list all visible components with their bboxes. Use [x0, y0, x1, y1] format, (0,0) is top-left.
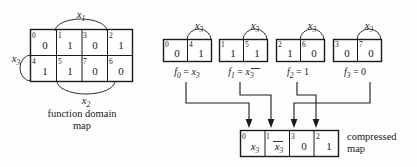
cell-value: 1 — [287, 47, 293, 59]
column-pair-1: x3 1 1 5 1 f1 = x3 — [220, 19, 268, 80]
x3-label-col1: x3 — [250, 19, 260, 34]
cell-index: 2 — [278, 40, 282, 49]
arrowhead-cell1 — [268, 119, 275, 128]
function-label-f2: f2 = 1 — [287, 66, 309, 80]
cell-index: 6 — [109, 57, 113, 66]
function-label-f1: f1 = x3 — [228, 66, 254, 80]
cell-index: 7 — [83, 57, 87, 66]
x1-label: x1 — [76, 8, 86, 23]
compressed-cell-index: 1 — [266, 132, 270, 141]
compressed-cell-value: 0 — [301, 140, 307, 152]
compressed-cell-value: x3 — [250, 140, 260, 155]
cell-value: 1 — [118, 39, 124, 51]
compressed-map-caption-line2: map — [347, 143, 365, 154]
cell-value: 1 — [198, 47, 204, 59]
x2-arc — [57, 81, 115, 94]
cell-index: 4 — [189, 40, 193, 49]
x3-label-col3: x3 — [364, 19, 374, 34]
cell-index: 0 — [32, 31, 36, 40]
compressed-map: 0 x3 1 x3 3 0 2 1 compressed map — [241, 131, 398, 157]
cell-index: 5 — [245, 40, 249, 49]
cell-index: 2 — [109, 31, 113, 40]
compressed-cell-index: 0 — [242, 132, 246, 141]
cell-value: 1 — [254, 47, 260, 59]
compressed-cell-value: 1 — [326, 140, 332, 152]
x3-label-col2: x3 — [307, 19, 317, 34]
cell-index: 1 — [58, 31, 62, 40]
function-label-f3: f3 = 0 — [344, 66, 366, 80]
domain-map-caption-line1: function domain — [47, 108, 117, 119]
cell-value: 1 — [67, 39, 73, 51]
diagram-canvas: x1 x3 x2 0 0 1 1 3 — [0, 0, 417, 167]
wire-f2-to-cell3 — [297, 82, 316, 120]
domain-map-row-bottom: 4 1 5 1 7 0 6 0 — [32, 57, 124, 77]
x3-label-left: x3 — [11, 52, 21, 67]
cell-value: 0 — [174, 47, 180, 59]
cell-index: 5 — [58, 57, 62, 66]
cell-value: 1 — [67, 65, 73, 77]
cell-value: 0 — [42, 39, 48, 51]
column-pair-2: x3 2 1 6 0 f2 = 1 — [277, 19, 325, 80]
cell-index: 0 — [165, 40, 169, 49]
function-label-f0: f0 = x3 — [174, 66, 200, 80]
cell-value: 0 — [344, 47, 350, 59]
column-pair-0: x3 0 0 4 1 f0 = x3 — [164, 19, 212, 80]
cell-value: 0 — [118, 65, 124, 77]
cell-value: 1 — [230, 47, 236, 59]
arrowhead-cell0 — [246, 119, 253, 128]
x3-label-col0: x3 — [194, 19, 204, 34]
cell-value: 0 — [368, 47, 374, 59]
wire-f1-to-cell1 — [240, 82, 271, 120]
domain-map-row-top: 0 0 1 1 3 0 2 1 — [32, 31, 124, 51]
cell-index: 1 — [221, 40, 225, 49]
compressed-map-caption-line1: compressed — [347, 131, 397, 142]
arrowhead-cell3 — [313, 119, 320, 128]
x3-arc-left — [20, 55, 31, 81]
figure-root: x1 x3 x2 0 0 1 1 3 — [0, 0, 417, 167]
cell-index: 3 — [335, 40, 339, 49]
connector-wires — [186, 82, 370, 128]
cell-index: 4 — [32, 57, 36, 66]
compressed-cell-value: x3 — [274, 140, 284, 155]
function-domain-map: x1 x3 x2 0 0 1 1 3 — [11, 8, 133, 131]
column-pair-3: x3 3 0 7 0 f3 = 0 — [334, 19, 382, 80]
cell-index: 7 — [359, 40, 363, 49]
cell-value: 1 — [42, 65, 48, 77]
compressed-cell-index: 2 — [316, 132, 320, 141]
x2-label: x2 — [81, 94, 91, 109]
compressed-cell-index: 3 — [291, 132, 295, 141]
cell-value: 0 — [92, 39, 98, 51]
cell-index: 3 — [83, 31, 87, 40]
arrowhead-cell2 — [291, 119, 298, 128]
cell-value: 0 — [311, 47, 317, 59]
cell-index: 6 — [302, 40, 306, 49]
domain-map-caption-line2: map — [73, 120, 91, 131]
wire-f3-to-cell2 — [294, 82, 370, 120]
cell-value: 0 — [92, 65, 98, 77]
